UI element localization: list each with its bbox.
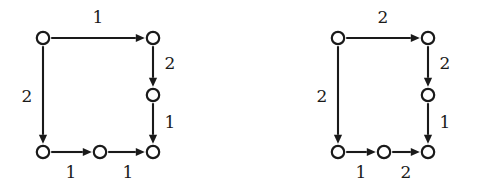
edge-weight-label: 2 [317, 86, 328, 106]
arrowhead-icon [411, 34, 420, 42]
edge-weight-label: 2 [378, 7, 389, 27]
edge-weight-label: 1 [165, 112, 176, 132]
arrowhead-icon [411, 148, 420, 156]
edge-right-lower: 1 [424, 103, 451, 144]
node-middle-right [147, 89, 159, 101]
arrowhead-icon [136, 34, 145, 42]
edge-weight-label: 1 [356, 162, 367, 182]
right-graph-canvas: 222112 [244, 0, 488, 193]
node-bottom-right [422, 146, 434, 158]
node-top-right [422, 32, 434, 44]
edge-top: 1 [51, 7, 145, 43]
arrowhead-icon [424, 135, 432, 144]
edge-bottom-right: 2 [392, 148, 420, 182]
edge-weight-label: 2 [440, 53, 451, 73]
arrowhead-icon [334, 135, 342, 144]
edge-top: 2 [346, 7, 420, 43]
arrowhead-icon [424, 78, 432, 87]
node-middle-right [422, 89, 434, 101]
edge-left: 2 [22, 46, 48, 144]
edge-bottom-left: 1 [346, 148, 376, 182]
node-bottom-middle [378, 146, 390, 158]
edge-bottom-left: 1 [51, 148, 92, 182]
node-top-left [37, 32, 49, 44]
edge-weight-label: 1 [66, 162, 77, 182]
node-top-left [332, 32, 344, 44]
edge-weight-label: 2 [401, 162, 412, 182]
edge-bottom-right: 1 [108, 148, 145, 182]
node-bottom-left [37, 146, 49, 158]
arrowhead-icon [367, 148, 376, 156]
edge-right-upper: 2 [149, 46, 176, 87]
edge-right-upper: 2 [424, 46, 451, 87]
arrowhead-icon [83, 148, 92, 156]
left-graph-canvas: 122111 [0, 0, 244, 193]
node-bottom-left [332, 146, 344, 158]
left-graph: 122111 [0, 0, 244, 193]
edge-weight-label: 2 [165, 53, 176, 73]
arrowhead-icon [39, 135, 47, 144]
arrowhead-icon [149, 78, 157, 87]
node-bottom-middle [94, 146, 106, 158]
edge-weight-label: 1 [123, 162, 134, 182]
arrowhead-icon [136, 148, 145, 156]
figure-root: 122111 222112 [0, 0, 488, 193]
node-bottom-right [147, 146, 159, 158]
edge-left: 2 [317, 46, 343, 144]
edge-weight-label: 1 [93, 7, 104, 27]
right-graph: 222112 [244, 0, 488, 193]
edge-right-lower: 1 [149, 103, 176, 144]
node-top-right [147, 32, 159, 44]
edge-weight-label: 1 [440, 112, 451, 132]
arrowhead-icon [149, 135, 157, 144]
edge-weight-label: 2 [22, 86, 33, 106]
